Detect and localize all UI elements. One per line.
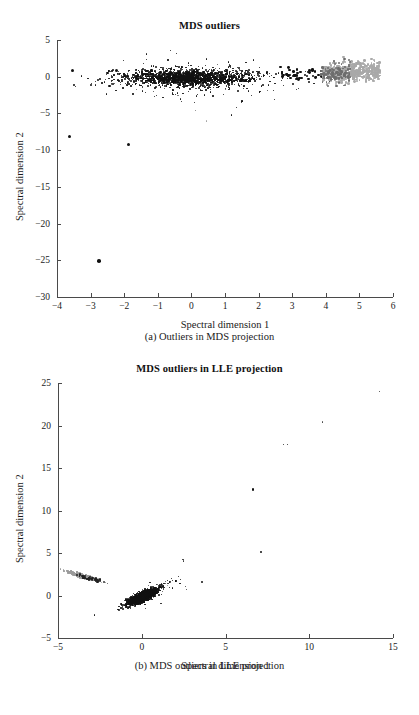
data-point	[338, 62, 340, 64]
data-point	[111, 81, 113, 83]
y-tick-label-plot-a: −30	[10, 292, 50, 302]
data-point	[226, 70, 228, 72]
data-point	[263, 74, 264, 75]
data-point	[282, 78, 283, 79]
data-point	[289, 77, 292, 80]
data-point	[130, 80, 132, 82]
data-point	[143, 594, 144, 595]
data-point	[172, 89, 173, 90]
data-point	[246, 88, 248, 90]
data-point	[124, 600, 125, 601]
data-point	[235, 77, 237, 79]
data-point	[188, 65, 189, 66]
data-point	[377, 70, 379, 72]
data-point	[151, 65, 152, 66]
data-point	[207, 87, 209, 89]
data-point	[232, 75, 233, 76]
data-point	[204, 87, 205, 88]
x-tick-plot-b	[142, 634, 143, 638]
data-point	[202, 67, 203, 68]
data-point	[118, 606, 119, 607]
data-point	[135, 594, 137, 596]
data-point	[106, 93, 107, 94]
data-point	[283, 444, 284, 445]
data-point	[223, 74, 224, 75]
panel-a: MDS outliers 50−5−10−15−20−25−30−4−3−2−1…	[0, 0, 419, 355]
data-point	[130, 608, 131, 609]
data-point	[220, 83, 221, 84]
data-point	[168, 78, 170, 80]
data-point	[142, 90, 143, 91]
data-point	[172, 587, 174, 589]
data-point	[141, 601, 142, 602]
data-point	[160, 78, 161, 79]
x-axis-label-a: Spectral dimension 1	[181, 319, 270, 330]
data-point	[347, 82, 350, 85]
data-point	[94, 614, 95, 615]
data-point	[175, 82, 177, 84]
data-point	[148, 600, 149, 601]
data-point	[108, 85, 110, 87]
data-point	[362, 66, 364, 68]
data-point	[231, 114, 232, 115]
x-tick-label-plot-a: 5	[357, 301, 362, 311]
data-point	[149, 594, 150, 595]
data-point	[144, 591, 145, 592]
data-point	[219, 68, 220, 69]
data-point	[343, 58, 345, 60]
data-point	[150, 81, 151, 82]
data-point	[331, 68, 333, 70]
data-point	[130, 85, 132, 87]
data-point	[120, 84, 121, 85]
data-point	[154, 70, 156, 72]
x-axis-line-a	[57, 297, 393, 298]
data-point	[145, 608, 146, 609]
data-point	[130, 597, 131, 598]
x-tick-plot-a	[359, 293, 360, 297]
data-point	[271, 75, 273, 77]
data-point	[327, 72, 329, 74]
data-point	[194, 102, 195, 103]
data-point	[296, 68, 299, 71]
y-tick-plot-b	[58, 468, 62, 469]
data-point	[121, 80, 123, 82]
data-point	[154, 87, 155, 88]
data-point	[311, 69, 314, 72]
y-tick-plot-b	[58, 553, 62, 554]
data-point	[157, 78, 158, 79]
x-tick-label-plot-a: −1	[153, 301, 163, 311]
data-point	[152, 593, 153, 594]
data-point	[218, 86, 219, 87]
data-point	[193, 75, 194, 76]
figure-mds-outliers: MDS outliers 50−5−10−15−20−25−30−4−3−2−1…	[0, 0, 419, 715]
data-point	[180, 98, 181, 99]
data-point	[222, 79, 224, 81]
data-point	[229, 76, 230, 77]
data-point	[198, 66, 199, 67]
data-point	[143, 73, 145, 75]
data-point	[204, 94, 205, 95]
data-point	[256, 79, 257, 80]
data-point	[230, 67, 231, 68]
data-point	[150, 599, 151, 600]
y-tick-plot-a	[57, 77, 61, 78]
data-point	[75, 86, 76, 87]
data-point	[132, 93, 134, 95]
data-point	[60, 568, 62, 570]
x-tick-label-plot-b: 5	[223, 642, 228, 652]
data-point	[184, 79, 185, 80]
data-point	[156, 592, 157, 593]
data-point	[203, 72, 204, 73]
data-point	[343, 85, 345, 87]
data-point	[338, 77, 340, 79]
data-point	[150, 69, 152, 71]
data-point	[154, 96, 155, 97]
data-point	[95, 84, 96, 85]
x-tick-label-plot-a: 3	[290, 301, 295, 311]
data-point	[273, 90, 274, 91]
data-point	[127, 143, 130, 146]
data-point	[234, 84, 235, 85]
x-tick-plot-a	[292, 293, 293, 297]
data-point	[132, 84, 133, 85]
data-point	[195, 68, 197, 70]
